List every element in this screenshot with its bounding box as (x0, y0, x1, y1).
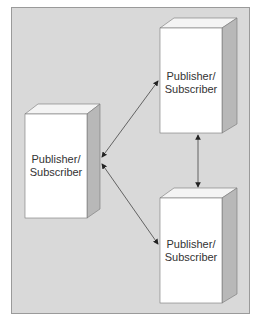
label-line-1: Publisher/ (160, 70, 222, 83)
node-label-top-right: Publisher/ Subscriber (160, 70, 222, 96)
label-line-2: Subscriber (25, 166, 87, 179)
edge-left-bottom-right (102, 164, 158, 244)
edge-left-top-right (102, 81, 158, 157)
node-label-bottom-right: Publisher/ Subscriber (160, 238, 222, 264)
label-line-1: Publisher/ (25, 153, 87, 166)
label-line-1: Publisher/ (160, 238, 222, 251)
label-line-2: Subscriber (160, 83, 222, 96)
label-line-2: Subscriber (160, 251, 222, 264)
node-label-left: Publisher/ Subscriber (25, 153, 87, 179)
